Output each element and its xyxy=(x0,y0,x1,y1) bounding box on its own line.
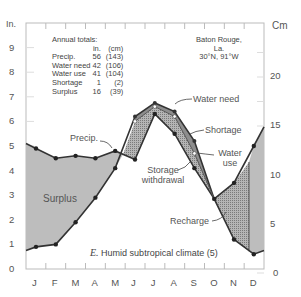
x-tick-label: A xyxy=(171,277,177,288)
water-need-point xyxy=(192,139,196,143)
y-tick-label-right: 20 xyxy=(270,70,281,81)
x-tick-label: J xyxy=(151,277,156,288)
annotation-precip: Precip. xyxy=(70,133,98,143)
water-use-point xyxy=(133,120,137,124)
precip-point xyxy=(113,149,117,153)
x-tick-label: M xyxy=(72,277,80,288)
y-tick-label-left: 3 xyxy=(9,189,14,200)
water-need-point xyxy=(73,220,77,224)
water-need-leader xyxy=(175,99,192,104)
precip-point xyxy=(54,156,58,160)
water-need-point xyxy=(232,237,236,241)
location-label: Baton Rouge, La. 30°N, 91°W xyxy=(196,36,242,62)
chart-title: E. Humid subtropical climate (5) xyxy=(90,247,218,258)
water-need-point xyxy=(133,114,137,118)
annotation-water-use: Water use xyxy=(215,148,245,168)
title-letter: E. xyxy=(90,247,99,258)
water-need-point xyxy=(153,101,157,105)
y-tick-label-left: 9 xyxy=(9,42,14,53)
y-axis-left-label: In. xyxy=(6,19,16,29)
y-tick-label-right: 0 xyxy=(273,267,278,278)
annotation-surplus: Surplus xyxy=(43,194,77,204)
x-tick-label: N xyxy=(230,277,237,288)
annotation-recharge: Recharge xyxy=(170,216,209,226)
water-need-point xyxy=(113,166,117,170)
x-tick-label: J xyxy=(32,277,37,288)
water-use-point xyxy=(173,115,177,119)
precip-leader xyxy=(100,141,112,148)
water-use-point xyxy=(193,152,197,156)
precip-point xyxy=(192,166,196,170)
y-tick-label-right: 5 xyxy=(270,218,275,229)
y-tick-label-left: 0 xyxy=(9,263,14,274)
precip-point xyxy=(232,181,236,185)
y-tick-label-left: 6 xyxy=(9,115,14,126)
x-tick-label: D xyxy=(250,277,257,288)
y-tick-label-left: 4 xyxy=(9,165,14,176)
x-tick-label: J xyxy=(131,277,136,288)
y-tick-label-left: 5 xyxy=(9,140,14,151)
water-use-point xyxy=(153,105,157,109)
water-need-point xyxy=(173,110,177,114)
y-tick-label-left: 2 xyxy=(9,214,14,225)
x-tick-label: F xyxy=(52,277,58,288)
precip-point xyxy=(73,154,77,158)
y-axis-right-label: Cm xyxy=(272,21,288,31)
precip-point xyxy=(252,144,256,148)
x-tick-label: A xyxy=(91,277,97,288)
annotation-shortage: Shortage xyxy=(205,125,242,135)
precip-point xyxy=(212,197,216,201)
y-tick-label-right: 15 xyxy=(270,119,281,130)
precip-point xyxy=(172,132,176,136)
recharge-area xyxy=(214,162,249,251)
precip-point xyxy=(133,157,137,161)
precip-point xyxy=(153,112,157,116)
x-tick-label: O xyxy=(210,277,217,288)
x-tick-label: M xyxy=(111,277,119,288)
water-need-point xyxy=(93,195,97,199)
annotation-water-need: Water need xyxy=(193,94,239,104)
water-need-point xyxy=(34,245,38,249)
x-tick-label: S xyxy=(190,277,196,288)
shortage-leader xyxy=(190,130,204,134)
totals-row: Surplus16(39) xyxy=(52,88,125,97)
y-tick-label-right: 10 xyxy=(270,169,281,180)
annotation-storage-withdrawal: Storage withdrawal xyxy=(140,165,186,185)
water-need-point xyxy=(54,242,58,246)
y-tick-label-left: 8 xyxy=(9,66,14,77)
water-need-point xyxy=(252,252,256,256)
annual-totals-table: Annual totals: in.(cm) Precip.56(143) Wa… xyxy=(52,36,125,96)
surplus-area-december xyxy=(249,127,264,254)
precip-point xyxy=(93,156,97,160)
precip-point xyxy=(34,146,38,150)
y-tick-label-left: 7 xyxy=(9,91,14,102)
y-tick-label-left: 1 xyxy=(9,238,14,249)
